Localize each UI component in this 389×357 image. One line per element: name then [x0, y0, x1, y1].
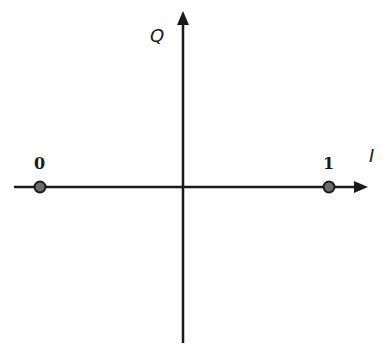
- constellation-point-0: [35, 182, 46, 193]
- i-axis-arrow-icon: [354, 181, 368, 193]
- constellation-point-1: [324, 182, 335, 193]
- q-axis-label: Q: [150, 25, 164, 46]
- i-axis-label: I: [369, 145, 374, 166]
- point-label-0: 0: [34, 154, 45, 173]
- q-axis-arrow-icon: [177, 11, 189, 25]
- constellation-diagram: Q I 0 1: [0, 0, 389, 357]
- point-label-1: 1: [323, 154, 334, 173]
